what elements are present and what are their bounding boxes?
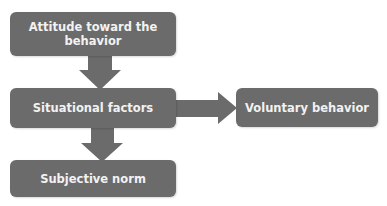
node-label: Voluntary behavior: [245, 101, 369, 115]
arrow-right-situational-to-voluntary: [176, 92, 237, 124]
node-label: Subjective norm: [40, 172, 146, 186]
node-voluntary-behavior: Voluntary behavior: [236, 88, 378, 127]
arrow-down-situational-to-subjective: [81, 128, 123, 162]
node-label: Situational factors: [33, 101, 153, 115]
arrow-down-attitude-to-situational: [79, 56, 121, 90]
node-attitude-toward-behavior: Attitude toward the behavior: [10, 12, 176, 56]
node-situational-factors: Situational factors: [10, 88, 176, 128]
node-subjective-norm: Subjective norm: [10, 160, 176, 197]
node-label: Attitude toward the behavior: [10, 20, 176, 48]
